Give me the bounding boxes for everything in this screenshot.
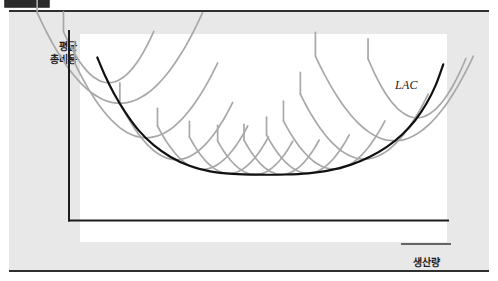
sac-curve-layer (37, 0, 473, 175)
sac-curve (120, 103, 233, 160)
sac-curve (368, 59, 466, 118)
axis-lines (68, 30, 451, 244)
figure-panel: 평균 총비용 생산량 LAC (9, 10, 489, 272)
sac-curve (315, 56, 473, 141)
lac-envelope-curve (97, 57, 443, 174)
lac-curve-layer (97, 57, 443, 174)
chart-graphic (9, 12, 489, 274)
corner-tab-marker (4, 0, 50, 8)
figure-page: 평균 총비용 생산량 LAC (0, 0, 498, 281)
sac-curve (75, 63, 218, 138)
sac-curve (267, 135, 350, 173)
sac-curve (63, 31, 153, 82)
